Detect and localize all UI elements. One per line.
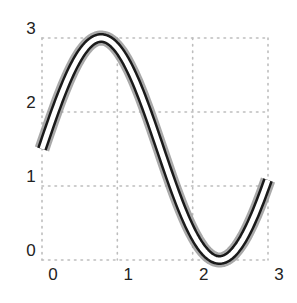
x-tick-label: 3 bbox=[274, 265, 283, 284]
data-line bbox=[42, 38, 268, 260]
y-tick-label: 2 bbox=[26, 93, 35, 112]
line-chart: 0123 0123 bbox=[0, 0, 297, 303]
x-tick-label: 0 bbox=[48, 265, 57, 284]
y-tick-label: 0 bbox=[26, 241, 35, 260]
y-tick-label: 3 bbox=[26, 19, 35, 38]
y-tick-label: 1 bbox=[26, 167, 35, 186]
x-tick-label: 2 bbox=[199, 265, 208, 284]
x-tick-label: 1 bbox=[124, 265, 133, 284]
y-axis-ticks: 0123 bbox=[26, 19, 35, 260]
x-axis-ticks: 0123 bbox=[48, 265, 283, 284]
